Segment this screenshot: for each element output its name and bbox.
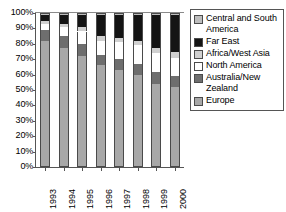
bar-segment[interactable] bbox=[170, 58, 180, 76]
bar-segment[interactable] bbox=[114, 59, 124, 70]
legend-item-label: Africa/West Asia bbox=[206, 48, 270, 59]
x-tick-label: 2000 bbox=[178, 189, 188, 209]
bar-1995[interactable] bbox=[77, 13, 87, 167]
bar-segment[interactable] bbox=[151, 48, 161, 53]
bar-segment[interactable] bbox=[40, 21, 50, 24]
bar-1998[interactable] bbox=[133, 13, 143, 167]
bar-segment[interactable] bbox=[133, 64, 143, 75]
bar-segment[interactable] bbox=[170, 52, 180, 58]
bar-segment[interactable] bbox=[40, 30, 50, 41]
legend-item-label: North America bbox=[206, 60, 262, 71]
bar-segment[interactable] bbox=[59, 36, 69, 48]
y-tick-mark bbox=[33, 167, 36, 168]
chart-root: 0%10%20%30%40%50%60%70%80%90%100% 199319… bbox=[0, 0, 286, 212]
bar-segment[interactable] bbox=[59, 48, 69, 167]
bar-segment[interactable] bbox=[40, 41, 50, 167]
x-tick-label: 1993 bbox=[48, 189, 58, 209]
bar-segment[interactable] bbox=[96, 15, 106, 37]
x-axis-tick-labels: 19931994199519961997199819992000 bbox=[35, 169, 184, 212]
y-tick-label: 0% bbox=[20, 162, 33, 171]
bar-segment[interactable] bbox=[77, 56, 87, 167]
bar-segment[interactable] bbox=[59, 24, 69, 27]
legend-swatch-icon bbox=[194, 38, 203, 47]
y-tick-mark bbox=[33, 75, 36, 76]
bar-segment[interactable] bbox=[40, 13, 50, 15]
y-tick-mark bbox=[33, 121, 36, 122]
bar-1994[interactable] bbox=[59, 13, 69, 167]
legend-item[interactable]: Far East bbox=[194, 36, 281, 47]
y-tick-mark bbox=[33, 44, 36, 45]
bar-segment[interactable] bbox=[77, 32, 87, 44]
bar-segment[interactable] bbox=[151, 13, 161, 15]
y-axis-tick-labels: 0%10%20%30%40%50%60%70%80%90%100% bbox=[0, 0, 34, 212]
bar-segment[interactable] bbox=[77, 15, 87, 27]
bar-segment[interactable] bbox=[96, 55, 106, 66]
bar-segment[interactable] bbox=[96, 36, 106, 41]
x-tick-label: 1997 bbox=[122, 189, 132, 209]
y-tick-label: 60% bbox=[16, 70, 33, 79]
bar-segment[interactable] bbox=[151, 53, 161, 71]
bar-segment[interactable] bbox=[151, 84, 161, 167]
x-tick-label: 1999 bbox=[159, 189, 169, 209]
bar-segment[interactable] bbox=[133, 45, 143, 63]
legend-item-label: Australia/New Zealand bbox=[206, 72, 281, 94]
plot-axes bbox=[35, 13, 184, 168]
bar-series-container bbox=[36, 13, 184, 167]
bar-segment[interactable] bbox=[59, 15, 69, 24]
y-tick-label: 80% bbox=[16, 39, 33, 48]
y-tick-mark bbox=[33, 90, 36, 91]
bar-segment[interactable] bbox=[170, 76, 180, 87]
bar-segment[interactable] bbox=[114, 15, 124, 38]
bar-segment[interactable] bbox=[170, 13, 180, 15]
y-tick-label: 90% bbox=[16, 23, 33, 32]
legend-item-label: Far East bbox=[206, 36, 239, 47]
bar-segment[interactable] bbox=[77, 44, 87, 56]
y-tick-mark bbox=[33, 28, 36, 29]
bar-segment[interactable] bbox=[40, 24, 50, 30]
x-tick-label: 1994 bbox=[67, 189, 77, 209]
bar-segment[interactable] bbox=[114, 38, 124, 43]
y-tick-label: 10% bbox=[16, 147, 33, 156]
x-tick-label: 1995 bbox=[85, 189, 95, 209]
y-tick-mark bbox=[33, 136, 36, 137]
bar-segment[interactable] bbox=[133, 41, 143, 46]
bar-segment[interactable] bbox=[133, 75, 143, 167]
bar-segment[interactable] bbox=[96, 13, 106, 15]
legend-item[interactable]: Africa/West Asia bbox=[194, 48, 281, 59]
legend-item[interactable]: Australia/New Zealand bbox=[194, 72, 281, 94]
y-tick-mark bbox=[33, 152, 36, 153]
x-tick-label: 1998 bbox=[141, 189, 151, 209]
bar-segment[interactable] bbox=[114, 42, 124, 59]
bar-segment[interactable] bbox=[40, 15, 50, 21]
plot-area: 0%10%20%30%40%50%60%70%80%90%100% 199319… bbox=[0, 0, 186, 212]
bar-1993[interactable] bbox=[40, 13, 50, 167]
legend-item[interactable]: Europe bbox=[194, 95, 281, 106]
bar-segment[interactable] bbox=[77, 13, 87, 15]
bar-segment[interactable] bbox=[96, 65, 106, 167]
bar-segment[interactable] bbox=[170, 15, 180, 52]
bar-segment[interactable] bbox=[59, 13, 69, 15]
legend-item[interactable]: North America bbox=[194, 60, 281, 71]
bar-segment[interactable] bbox=[151, 72, 161, 84]
bar-segment[interactable] bbox=[170, 87, 180, 167]
bar-segment[interactable] bbox=[114, 13, 124, 15]
y-tick-label: 70% bbox=[16, 54, 33, 63]
chart-legend: Central and South AmericaFar EastAfrica/… bbox=[190, 9, 284, 111]
bar-segment[interactable] bbox=[77, 27, 87, 32]
x-tick-label: 1996 bbox=[104, 189, 114, 209]
bar-1996[interactable] bbox=[96, 13, 106, 167]
y-tick-mark bbox=[33, 13, 36, 14]
bar-segment[interactable] bbox=[59, 27, 69, 36]
bar-segment[interactable] bbox=[151, 15, 161, 49]
bar-2000[interactable] bbox=[170, 13, 180, 167]
bar-segment[interactable] bbox=[133, 13, 143, 15]
y-tick-label: 40% bbox=[16, 100, 33, 109]
bar-segment[interactable] bbox=[114, 70, 124, 167]
legend-item-label: Europe bbox=[206, 95, 234, 106]
legend-item[interactable]: Central and South America bbox=[194, 13, 281, 35]
bar-segment[interactable] bbox=[96, 41, 106, 55]
bar-1999[interactable] bbox=[151, 13, 161, 167]
bar-segment[interactable] bbox=[133, 15, 143, 41]
bar-1997[interactable] bbox=[114, 13, 124, 167]
legend-swatch-icon bbox=[194, 62, 203, 71]
